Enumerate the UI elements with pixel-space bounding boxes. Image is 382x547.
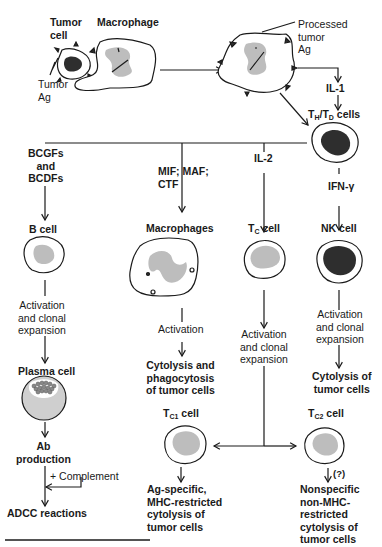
macrophages-label: Macrophages [146, 222, 214, 235]
nk-cell-icon [317, 241, 362, 283]
tc1-cell-label: TC1 cell [163, 407, 199, 424]
ifn-gamma-label: IFN-γ [328, 180, 354, 193]
plasma-cell-icon [22, 376, 66, 420]
tc-cell-label: TC cell [248, 222, 280, 239]
bcgf-bcdf-label: BCGFsandBCDFs [28, 147, 64, 185]
ab-production-label: Abproduction [16, 440, 71, 465]
tc2-cell-label: TC2 cell [308, 407, 344, 424]
tc2-output-label: Nonspecificnon-MHC-restrictedcytolysis o… [300, 483, 360, 546]
il2-label: IL-2 [254, 152, 273, 165]
th-td-cells-label: TH/TD cells [308, 108, 360, 125]
nk-cell-label: NK cell [321, 222, 357, 235]
macrophage-output-label: Cytolysis andphagocytosisof tumor cells [146, 359, 215, 397]
tc1-output-label: Ag-specific,MHC-restrictedcytolysis oftu… [147, 483, 222, 533]
b-cell-icon [24, 237, 64, 273]
processed-macrophage-icon [218, 22, 297, 96]
tumor-cell-icon [50, 42, 95, 82]
tumor-cell-label: Tumorcell [50, 16, 82, 41]
th-td-cell-icon [312, 123, 358, 163]
tc1-cell-icon [165, 426, 206, 463]
tc-cell-icon [244, 241, 285, 279]
tc-activation-label: Activationand clonalexpansion [240, 328, 288, 366]
il1-label: IL-1 [326, 82, 345, 95]
tc2-cell-icon [305, 428, 344, 463]
b-activation-label: Activationand clonalexpansion [18, 299, 66, 337]
b-cell-label: B cell [29, 223, 57, 236]
nk-output-label: Cytolysis oftumor cells [312, 370, 372, 395]
complement-label: + Complement [50, 470, 119, 483]
tc2-question-label: (?) [333, 468, 345, 481]
plasma-cell-label: Plasma cell [18, 365, 75, 378]
adcc-reactions-label: ADCC reactions [7, 507, 87, 520]
macrophage-activation-label: Activation [158, 323, 204, 336]
activated-macrophage-icon [130, 238, 198, 296]
processed-tumor-ag-label: ProcessedtumorAg [298, 18, 348, 56]
nk-activation-label: Activationand clonalexpansion [316, 308, 364, 346]
macrophage-label: Macrophage [97, 16, 159, 29]
tumor-ag-label: TumorAg [38, 78, 68, 103]
mif-maf-ctf-label: MIF; MAF;CTF [158, 165, 209, 190]
